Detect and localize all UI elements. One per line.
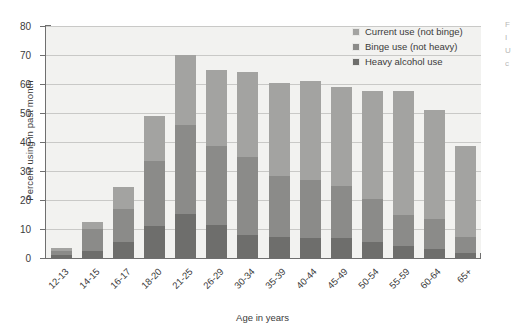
y-axis-tick-label: 40 — [20, 137, 31, 148]
bar-segment-binge — [300, 180, 321, 237]
legend-item: Binge use (not heavy) — [352, 39, 463, 54]
bar-segment-heavy — [113, 242, 134, 258]
y-axis-tick-label: 70 — [20, 50, 31, 61]
y-axis-tick: 0 — [40, 258, 46, 259]
legend-swatch-icon — [352, 58, 360, 66]
bar-segment-heavy — [144, 226, 165, 258]
bar-segment-binge — [144, 161, 165, 226]
bar-segment-binge — [455, 237, 476, 253]
bar-segment-current — [455, 146, 476, 236]
bar-segment-heavy — [424, 249, 445, 258]
bar-group — [455, 146, 476, 258]
bar-segment-binge — [206, 146, 227, 224]
bar-group — [113, 187, 134, 258]
bar-segment-heavy — [51, 255, 72, 258]
bar-segment-binge — [113, 209, 134, 242]
y-axis-tick-label: 30 — [20, 166, 31, 177]
bar-group — [144, 116, 165, 258]
bar-group — [362, 91, 383, 258]
bar-group — [269, 83, 290, 258]
y-axis-tick-label: 0 — [25, 253, 31, 264]
bar-segment-binge — [51, 251, 72, 255]
bar-segment-current — [82, 222, 103, 229]
bar-segment-heavy — [393, 246, 414, 258]
bar-segment-current — [362, 91, 383, 198]
bar-segment-heavy — [175, 214, 196, 258]
bar-segment-heavy — [269, 237, 290, 258]
bar-segment-current — [393, 91, 414, 214]
x-axis-title: Age in years — [45, 312, 480, 323]
legend-item-label: Heavy alcohol use — [365, 56, 443, 67]
bar-segment-binge — [424, 219, 445, 249]
legend-swatch-icon — [352, 43, 360, 51]
bar-segment-current — [144, 116, 165, 161]
y-axis-tick-label: 50 — [20, 108, 31, 119]
bar-segment-current — [269, 83, 290, 176]
bar-group — [424, 110, 445, 258]
y-axis-tick-label: 80 — [20, 21, 31, 32]
bar-segment-binge — [331, 186, 352, 238]
legend-item-label: Binge use (not heavy) — [365, 41, 457, 52]
bar-segment-current — [300, 81, 321, 180]
y-axis-tick-label: 60 — [20, 79, 31, 90]
legend-swatch-icon — [352, 28, 360, 36]
alcohol-use-by-age-chart: Percent using in past month 010203040506… — [0, 0, 514, 335]
legend-item: Heavy alcohol use — [352, 54, 463, 69]
bar-segment-heavy — [300, 238, 321, 258]
bar-segment-binge — [269, 176, 290, 237]
bar-segment-heavy — [237, 235, 258, 258]
bar-segment-current — [237, 72, 258, 156]
bar-segment-current — [175, 55, 196, 125]
bar-segment-binge — [362, 199, 383, 243]
bar-segment-binge — [237, 157, 258, 235]
bar-segment-heavy — [455, 253, 476, 258]
y-axis-tick-label: 10 — [20, 224, 31, 235]
legend-item-label: Current use (not binge) — [365, 26, 463, 37]
legend-item: Current use (not binge) — [352, 24, 463, 39]
bar-segment-heavy — [82, 251, 103, 258]
bar-group — [206, 70, 227, 259]
y-axis-tick-label: 20 — [20, 195, 31, 206]
bar-group — [393, 91, 414, 258]
bar-group — [82, 222, 103, 258]
bar-group — [51, 248, 72, 258]
bar-group — [331, 87, 352, 258]
bar-segment-binge — [393, 215, 414, 247]
bar-segment-current — [113, 187, 134, 209]
bar-segment-current — [331, 87, 352, 186]
bar-segment-current — [51, 248, 72, 251]
chart-legend: Current use (not binge)Binge use (not he… — [352, 24, 463, 69]
bar-segment-binge — [175, 125, 196, 213]
bar-segment-binge — [82, 229, 103, 251]
cutoff-caption: FIUc — [505, 18, 514, 70]
bar-group — [237, 72, 258, 258]
bar-segment-heavy — [206, 225, 227, 258]
bar-segment-current — [424, 110, 445, 219]
bar-segment-heavy — [331, 238, 352, 258]
bar-segment-current — [206, 70, 227, 147]
bar-segment-heavy — [362, 242, 383, 258]
bar-group — [300, 81, 321, 258]
bar-group — [175, 55, 196, 258]
